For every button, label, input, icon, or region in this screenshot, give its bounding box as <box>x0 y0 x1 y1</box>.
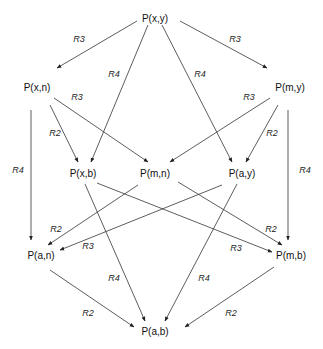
edge-label: R3 <box>229 34 241 44</box>
lattice-diagram: R3R3R4R4R2R3R4R3R2R4R2R3R3R2R4R4R2R2P(x,… <box>0 0 323 349</box>
edge-label: R2 <box>82 308 94 318</box>
edge-label: R2 <box>265 224 277 234</box>
edge-label: R4 <box>299 165 311 175</box>
edge-xy-my <box>180 21 267 68</box>
edge-label: R3 <box>71 92 83 102</box>
edge-xy-xn <box>57 21 137 68</box>
node-ay: P(a,y) <box>229 168 256 179</box>
node-xn: P(x,n) <box>24 82 51 93</box>
edge-label: R2 <box>266 128 278 138</box>
edge-xb-mb <box>97 183 272 252</box>
edge-label: R4 <box>198 273 210 283</box>
edge-my-mn <box>170 98 270 162</box>
edge-an-ab <box>50 270 134 327</box>
edge-label: R4 <box>108 273 120 283</box>
node-xy: P(x,y) <box>142 13 168 24</box>
edge-xy-xb <box>91 25 148 162</box>
edge-xn-mn <box>54 98 148 162</box>
edge-label: R2 <box>49 128 61 138</box>
edge-xy-ay <box>162 25 232 162</box>
edge-ay-ab <box>165 184 237 321</box>
node-ab: P(a,b) <box>141 326 168 337</box>
node-my: P(m,y) <box>275 82 304 93</box>
edge-label: R3 <box>73 34 85 44</box>
edge-label: R4 <box>12 165 24 175</box>
node-xb: P(x,b) <box>70 168 97 179</box>
edge-label: R2 <box>225 308 237 318</box>
edge-label: R3 <box>82 241 94 251</box>
edge-xb-ab <box>85 184 145 321</box>
node-mb: P(m,b) <box>276 250 306 261</box>
edge-label: R4 <box>108 69 120 79</box>
edge-label: R2 <box>50 224 62 234</box>
edge-label: R3 <box>230 243 242 253</box>
node-an: P(a,n) <box>27 250 54 261</box>
edge-label: R3 <box>243 92 255 102</box>
edge-label: R4 <box>194 69 206 79</box>
node-mn: P(m,n) <box>140 168 170 179</box>
